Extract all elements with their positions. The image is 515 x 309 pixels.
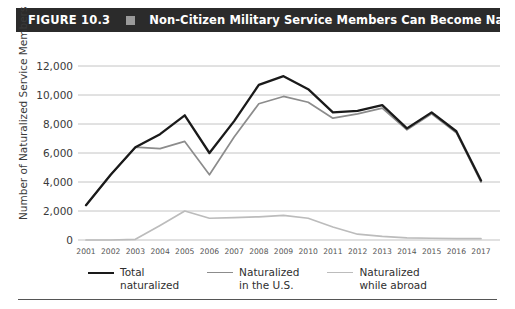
x-axis-tick-label: 2005 <box>175 247 194 256</box>
x-axis-tick-label: 2008 <box>249 247 268 256</box>
plot-area: Number of Naturalized Service Members 02… <box>0 40 515 265</box>
legend-label: Total naturalized <box>120 266 179 292</box>
legend-swatch-icon <box>327 272 353 273</box>
x-axis-tick-label: 2001 <box>76 247 95 256</box>
x-axis-tick-label: 2002 <box>101 247 120 256</box>
chart-legend: Total naturalizedNaturalized in the U.S.… <box>0 266 515 292</box>
legend-item[interactable]: Total naturalized <box>88 266 179 292</box>
x-axis-tick-label: 2012 <box>348 247 367 256</box>
y-axis-tick-label: 8,000 <box>43 118 73 130</box>
square-marker-icon <box>126 16 135 25</box>
legend-label: Naturalized while abroad <box>359 266 427 292</box>
figure-title: Non-Citizen Military Service Members Can… <box>149 13 515 27</box>
y-axis-tick-label: 12,000 <box>36 60 73 72</box>
x-axis-tick-label: 2017 <box>471 247 490 256</box>
x-axis-tick-label: 2009 <box>274 247 293 256</box>
y-axis-tick-label: 0 <box>66 234 73 246</box>
series-line <box>86 76 481 205</box>
x-axis-tick-label: 2014 <box>397 247 416 256</box>
legend-swatch-icon <box>88 272 114 274</box>
x-axis-tick-label: 2006 <box>200 247 219 256</box>
bottom-divider <box>18 299 497 300</box>
figure-container: FIGURE 10.3 Non-Citizen Military Service… <box>0 0 515 309</box>
y-axis-tick-label: 6,000 <box>43 147 73 159</box>
figure-number: FIGURE 10.3 <box>28 13 110 27</box>
x-axis-tick-label: 2013 <box>373 247 392 256</box>
x-axis-tick-label: 2004 <box>150 247 169 256</box>
y-axis-tick-label: 10,000 <box>36 89 73 101</box>
legend-item[interactable]: Naturalized in the U.S. <box>207 266 299 292</box>
series-line <box>86 96 481 205</box>
series-line <box>86 211 481 240</box>
x-axis-tick-label: 2003 <box>126 247 145 256</box>
x-axis-tick-label: 2010 <box>299 247 318 256</box>
x-axis-tick-label: 2016 <box>447 247 466 256</box>
y-axis-tick-label: 2,000 <box>43 205 73 217</box>
x-axis-tick-label: 2011 <box>323 247 342 256</box>
legend-label: Naturalized in the U.S. <box>239 266 299 292</box>
line-chart: 02,0004,0006,0008,00010,00012,0002001200… <box>0 40 515 265</box>
legend-item[interactable]: Naturalized while abroad <box>327 266 427 292</box>
x-axis-tick-label: 2007 <box>224 247 243 256</box>
y-axis-tick-label: 4,000 <box>43 176 73 188</box>
figure-title-bar: FIGURE 10.3 Non-Citizen Military Service… <box>16 8 500 32</box>
x-axis-tick-label: 2015 <box>422 247 441 256</box>
legend-swatch-icon <box>207 272 233 273</box>
